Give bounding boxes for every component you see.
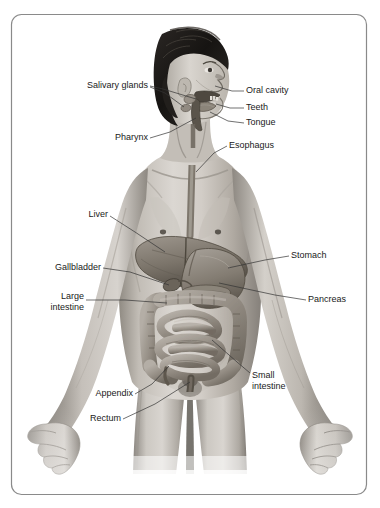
label-gallbladder: Gallbladder — [55, 262, 101, 272]
label-teeth: Teeth — [246, 102, 268, 112]
label-line: Large — [61, 291, 84, 301]
label-tongue: Tongue — [246, 117, 276, 127]
label-esophagus: Esophagus — [229, 140, 275, 150]
label-oral-cavity: Oral cavity — [246, 85, 289, 95]
label-line: Liver — [88, 209, 108, 219]
label-salivary-glands: Salivary glands — [87, 80, 149, 90]
label-line: Appendix — [95, 388, 133, 398]
label-line: Tongue — [246, 117, 276, 127]
label-pharynx: Pharynx — [115, 132, 149, 142]
label-line: Salivary glands — [87, 80, 149, 90]
label-line: Small — [252, 370, 275, 380]
anatomy-illustration: Salivary glandsOral cavityTeethTonguePha… — [0, 0, 380, 508]
label-line: Oral cavity — [246, 85, 289, 95]
label-line: Teeth — [246, 102, 268, 112]
label-line: Rectum — [90, 413, 121, 423]
label-rectum: Rectum — [90, 413, 121, 423]
label-line: Esophagus — [229, 140, 275, 150]
label-line: intestine — [252, 381, 286, 391]
label-pancreas: Pancreas — [308, 294, 347, 304]
label-appendix: Appendix — [95, 388, 133, 398]
label-line: Pharynx — [115, 132, 149, 142]
label-line: Stomach — [291, 250, 327, 260]
label-line: Pancreas — [308, 294, 347, 304]
label-liver: Liver — [88, 209, 108, 219]
label-stomach: Stomach — [291, 250, 327, 260]
anatomy-figure: Salivary glandsOral cavityTeethTonguePha… — [0, 0, 380, 508]
label-line: intestine — [50, 302, 84, 312]
label-line: Gallbladder — [55, 262, 101, 272]
